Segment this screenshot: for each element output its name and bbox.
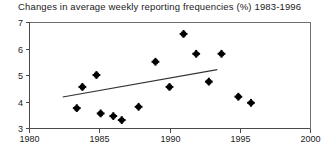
data-point [73, 104, 81, 112]
data-point [166, 83, 174, 91]
x-tick-label: 1995 [230, 134, 250, 144]
y-tick-label: 3 [18, 124, 23, 134]
data-point-cross-v [81, 83, 83, 91]
data-point-cross-v [237, 93, 239, 101]
data-point-cross-v [195, 50, 197, 58]
data-point-cross-v [169, 83, 171, 91]
y-tick-group [26, 23, 30, 129]
data-point-cross-v [250, 99, 252, 107]
y-tick-label-group: 34567 [18, 18, 23, 134]
data-point-cross-v [183, 30, 185, 38]
x-tick-label-group: 19801985199019952000 [19, 134, 320, 144]
x-tick-label: 1985 [89, 134, 109, 144]
plot-frame [30, 23, 311, 129]
trend-line [63, 70, 218, 97]
data-point [135, 103, 143, 111]
x-tick-group [30, 129, 311, 133]
x-tick-label: 1990 [160, 134, 180, 144]
data-point-cross-v [76, 104, 78, 112]
data-point-cross-v [208, 78, 210, 86]
data-point [218, 50, 226, 58]
data-point [152, 58, 160, 66]
trend-line-group [63, 70, 218, 97]
plot-border [30, 23, 311, 129]
data-point [247, 99, 255, 107]
x-tick-label: 2000 [300, 134, 320, 144]
data-point-group [73, 30, 255, 124]
data-point [93, 71, 101, 79]
y-tick-label: 6 [18, 45, 23, 55]
data-point [234, 93, 242, 101]
data-point [192, 50, 200, 58]
y-tick-label: 5 [18, 71, 23, 81]
x-tick-label: 1980 [19, 134, 39, 144]
data-point [109, 112, 117, 120]
data-point-cross-v [220, 50, 222, 58]
y-tick-label: 4 [18, 98, 23, 108]
data-point-cross-v [112, 112, 114, 120]
data-point [97, 110, 105, 118]
data-point [78, 83, 86, 91]
data-point-cross-v [100, 110, 102, 118]
data-point [205, 78, 213, 86]
data-point-cross-v [121, 116, 123, 124]
data-point [180, 30, 188, 38]
scatter-plot: 34567 19801985199019952000 [0, 0, 323, 152]
data-point [118, 116, 126, 124]
data-point-cross-v [138, 103, 140, 111]
data-point-cross-v [95, 71, 97, 79]
data-point-cross-v [154, 58, 156, 66]
y-tick-label: 7 [18, 18, 23, 28]
chart-container: Changes in average weekly reporting freq… [0, 0, 323, 152]
